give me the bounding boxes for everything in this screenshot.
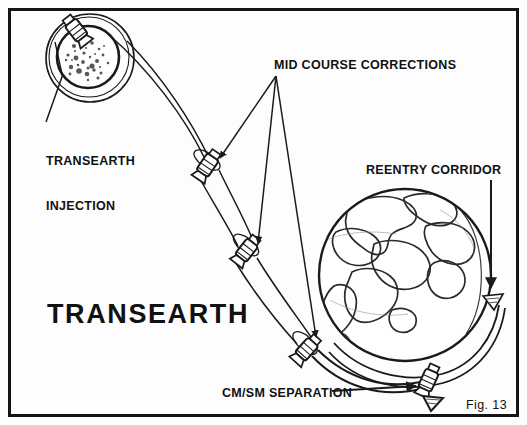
earth-disc [319,189,491,361]
figure-title: TRANSEARTH [47,298,249,331]
label-reentry-corridor: REENTRY CORRIDOR [366,163,501,178]
label-transearth-injection-line2: INJECTION [46,199,135,214]
figure-caption: Fig. 13 [466,398,507,413]
earth-group [319,189,491,361]
label-transearth-injection-line1: TRANSEARTH [46,154,135,169]
label-mid-course-corrections: MID COURSE CORRECTIONS [274,58,456,73]
label-cm-sm-separation: CM/SM SEPARATION [222,386,352,401]
label-transearth-injection: TRANSEARTH INJECTION [46,123,135,245]
figure-root: TRANSEARTH INJECTION MID COURSE CORRECTI… [0,0,527,425]
